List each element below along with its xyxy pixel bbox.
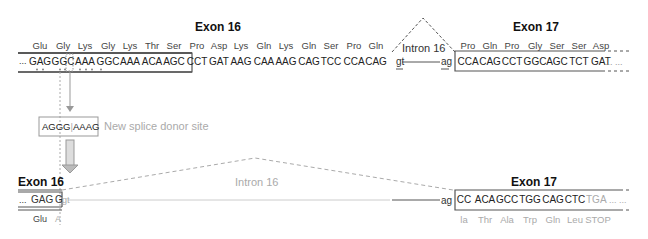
seq-right: AAAG xyxy=(73,121,99,132)
codon: CTC xyxy=(562,194,588,205)
codon: CAG xyxy=(363,56,389,67)
exon17-title: Exon 17 xyxy=(513,20,559,34)
bottom-intron-label: Intron 16 xyxy=(235,176,278,188)
bottom-leading-ellipsis: ... xyxy=(19,195,27,205)
mutation-sequence: AGGG|AAAG xyxy=(42,121,99,132)
bottom-trailing-ellipsis: ... ... xyxy=(609,195,627,205)
donor-site: gt xyxy=(396,56,404,67)
bottom-donor: gt xyxy=(62,195,70,205)
leading-ellipsis: ... xyxy=(19,56,27,66)
amino-acid: STOP xyxy=(585,214,611,225)
bottom-codon: GAG xyxy=(31,194,53,205)
mutation-label: New splice donor site xyxy=(104,120,209,132)
bottom-exon17-title: Exon 17 xyxy=(511,175,557,189)
trailing-ellipsis: ... ... xyxy=(605,57,623,67)
stop-codon: TGA xyxy=(586,194,607,205)
amino-acid: Asp xyxy=(588,40,614,51)
bottom-aa: Glu xyxy=(33,214,47,224)
exon16-title: Exon 16 xyxy=(195,20,241,34)
intron-label: Intron 16 xyxy=(402,42,445,54)
acceptor-site: ag xyxy=(441,56,452,67)
bottom-exon16-title: Exon 16 xyxy=(18,175,64,189)
bottom-partial-aa: A xyxy=(55,214,61,224)
amino-acid: Gln xyxy=(363,40,389,51)
seq-left: AGGG xyxy=(42,121,71,132)
